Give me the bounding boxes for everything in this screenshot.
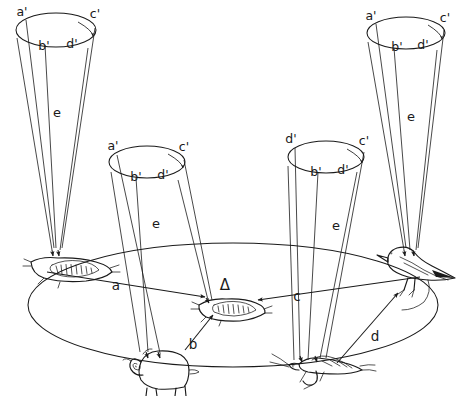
cone-2-label-d-prime: d': [157, 167, 168, 182]
organism-ram: [123, 349, 199, 396]
organism-tick-center: Δ: [191, 276, 272, 327]
cone-2-label-e: e: [152, 216, 160, 231]
cone-1-label-b-prime: b': [38, 38, 49, 53]
cone-4-label-a-prime: a': [365, 8, 376, 23]
figure-root: a' b' d' c' e a' b' d' c' e: [0, 0, 460, 396]
cone-1-label-a-prime: a': [16, 4, 27, 19]
diagram-canvas: a' b' d' c' e a' b' d' c' e: [0, 0, 460, 396]
arrow-c: c: [258, 277, 420, 304]
cone-3-rim: [288, 141, 364, 173]
organism-bird: [377, 247, 455, 310]
cone-3-label-d-prime-left: d': [285, 131, 296, 146]
cone-1-rim: [16, 13, 96, 47]
arrow-d: d: [337, 293, 398, 363]
cone-2-label-a-prime: a': [107, 138, 118, 153]
arrow-c-label: c: [293, 288, 300, 304]
arrow-d-label: d: [371, 328, 380, 344]
cone-3-label-c-prime: c': [359, 133, 369, 148]
cone-3-label-e: e: [332, 218, 340, 233]
cone-4-arc-arrow: [428, 25, 442, 39]
cone-4-label-b-prime: b': [391, 39, 402, 54]
cone-2-rim: [109, 146, 185, 178]
delta-marker: Δ: [220, 276, 231, 294]
cone-1-label-d-prime: d': [66, 36, 77, 51]
cone-3-arc-arrow: [347, 149, 362, 163]
cone-4-label-d-prime: d': [417, 37, 428, 52]
cone-2-arc-arrow: [168, 154, 183, 168]
cone-1-rays: [17, 20, 95, 256]
arrow-a: a: [47, 272, 205, 297]
cone-2-label-b-prime: b': [130, 169, 141, 184]
arrow-b-label: b: [189, 336, 198, 352]
cone-4-label-e: e: [407, 109, 415, 124]
arrow-a-label: a: [112, 277, 120, 293]
cone-2-label-c-prime: c': [179, 139, 189, 154]
arrow-b: b: [185, 315, 213, 352]
cone-4-rim: [367, 17, 445, 49]
cone-1-label-e: e: [53, 105, 61, 120]
cone-1-arc-arrow: [78, 22, 93, 36]
cone-3-label-b-prime: b': [310, 164, 321, 179]
cone-2: a' b' d' c' e: [107, 138, 212, 359]
organism-grasshopper: [270, 354, 376, 389]
cone-1: a' b' d' c' e: [16, 4, 100, 257]
organism-tick-left: [23, 258, 120, 289]
cone-4-rays: [368, 24, 444, 256]
cone-4-label-c-prime: c': [440, 10, 450, 25]
cone-1-label-c-prime: c': [90, 6, 100, 21]
cone-3-label-d-prime: d': [337, 162, 348, 177]
cone-4: a' b' d' c' e: [365, 8, 450, 257]
cone-2-rays: [111, 155, 212, 358]
